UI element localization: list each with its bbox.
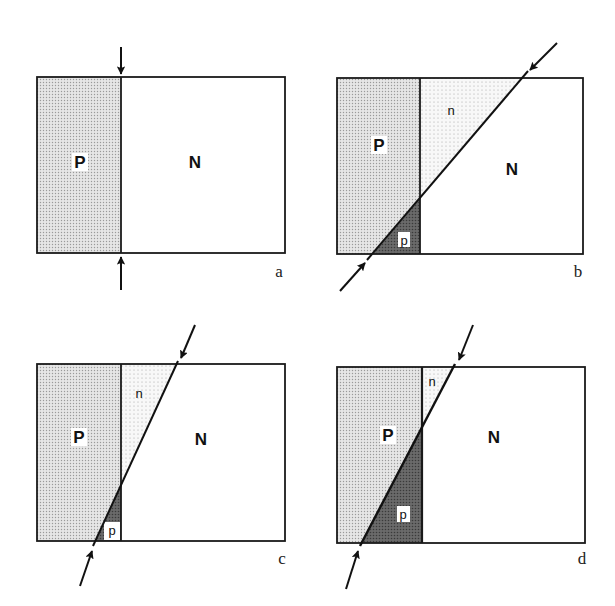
label-P: P — [73, 428, 84, 447]
panel-b: P N n p b — [337, 43, 583, 291]
label-p: p — [400, 233, 407, 248]
panel-label-c: c — [278, 549, 286, 568]
arrow-bottom-icon — [346, 551, 358, 589]
panel-label-b: b — [574, 262, 583, 281]
n-region — [121, 77, 285, 253]
n-region — [422, 367, 585, 543]
panel-a: P N a — [37, 47, 285, 290]
label-P: P — [382, 426, 393, 445]
label-N: N — [488, 428, 500, 447]
label-n: n — [447, 103, 454, 118]
label-n: n — [428, 374, 435, 389]
label-P: P — [74, 153, 85, 172]
label-P: P — [373, 136, 384, 155]
panel-label-a: a — [275, 262, 283, 281]
arrow-top-icon — [530, 43, 557, 70]
arrow-top-icon — [459, 325, 473, 360]
label-N: N — [506, 160, 518, 179]
label-N: N — [189, 153, 201, 172]
label-p: p — [399, 507, 406, 522]
panel-d: P N n p d — [337, 325, 587, 589]
panel-label-d: d — [578, 549, 587, 568]
label-N: N — [195, 430, 207, 449]
label-p: p — [108, 523, 115, 538]
arrow-bottom-icon — [340, 263, 365, 291]
arrow-bottom-icon — [80, 551, 92, 586]
panel-c: P N n p c — [37, 325, 286, 586]
label-n: n — [135, 386, 142, 401]
pn-junction-figure: P N a P N n p b P N — [0, 0, 615, 606]
arrow-top-icon — [181, 325, 195, 358]
